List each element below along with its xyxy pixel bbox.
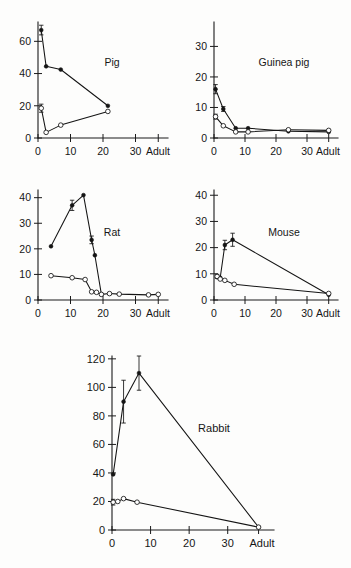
data-point-open[interactable] bbox=[233, 130, 238, 135]
chart-svg-guinea-pig: 01020300102030AdultGuinea pig bbox=[176, 4, 351, 172]
data-point-open[interactable] bbox=[221, 123, 226, 128]
y-tick-label: 20 bbox=[195, 241, 207, 253]
data-point-open[interactable] bbox=[115, 499, 120, 504]
x-tick-label-adult: Adult bbox=[146, 307, 170, 319]
y-tick-label: 10 bbox=[195, 268, 207, 280]
data-point-open[interactable] bbox=[70, 275, 75, 280]
data-point-filled[interactable] bbox=[82, 193, 86, 197]
y-tick-label: 30 bbox=[195, 215, 207, 227]
data-point-open[interactable] bbox=[39, 106, 44, 111]
x-axis-ticks: 0102030Adult bbox=[211, 296, 340, 319]
data-point-filled[interactable] bbox=[106, 104, 110, 108]
x-tick-label-adult: Adult bbox=[316, 307, 340, 319]
x-tick-label: 10 bbox=[144, 537, 156, 549]
data-point-filled[interactable] bbox=[137, 371, 141, 375]
data-point-filled[interactable] bbox=[231, 238, 235, 242]
series-polyline bbox=[41, 30, 108, 106]
panel-title-rat: Rat bbox=[104, 226, 120, 238]
x-tick-label: 10 bbox=[65, 307, 77, 319]
y-tick-label: 0 bbox=[201, 294, 207, 306]
data-point-open[interactable] bbox=[256, 525, 261, 530]
data-point-filled[interactable] bbox=[90, 238, 94, 242]
data-series-open bbox=[49, 273, 161, 297]
y-tick-label: 40 bbox=[19, 191, 31, 203]
data-point-filled[interactable] bbox=[59, 68, 63, 72]
data-point-open[interactable] bbox=[326, 128, 331, 133]
x-tick-label: 10 bbox=[65, 145, 77, 157]
data-point-open[interactable] bbox=[94, 290, 99, 295]
data-point-open[interactable] bbox=[135, 500, 140, 505]
chart-panel-rabbit[interactable]: 0204060801001200102030AdultRabbit bbox=[62, 340, 292, 566]
chart-panel-mouse[interactable]: 0102030400102030AdultMouse bbox=[176, 176, 351, 336]
data-point-open[interactable] bbox=[83, 277, 88, 282]
data-point-open[interactable] bbox=[44, 130, 49, 135]
data-point-open[interactable] bbox=[286, 127, 291, 132]
y-tick-label: 120 bbox=[87, 353, 105, 365]
data-point-open[interactable] bbox=[121, 496, 126, 501]
data-point-open[interactable] bbox=[232, 282, 237, 287]
data-point-open[interactable] bbox=[49, 273, 54, 278]
chart-svg-rat: 0102030400102030AdultRat bbox=[0, 176, 176, 336]
y-tick-label: 0 bbox=[25, 132, 31, 144]
data-series-open bbox=[215, 274, 331, 296]
data-point-open[interactable] bbox=[89, 290, 94, 295]
data-point-open[interactable] bbox=[106, 109, 111, 114]
data-point-open[interactable] bbox=[218, 277, 223, 282]
x-tick-label: 20 bbox=[270, 145, 282, 157]
chart-svg-mouse: 0102030400102030AdultMouse bbox=[176, 176, 351, 336]
data-point-filled[interactable] bbox=[111, 472, 115, 476]
y-tick-label: 20 bbox=[19, 243, 31, 255]
x-tick-label-adult: Adult bbox=[146, 145, 170, 157]
data-point-filled[interactable] bbox=[49, 244, 53, 248]
data-point-open[interactable] bbox=[156, 292, 161, 297]
y-tick-label: 0 bbox=[99, 524, 105, 536]
data-point-filled[interactable] bbox=[122, 400, 126, 404]
data-point-open[interactable] bbox=[146, 293, 151, 298]
data-point-filled[interactable] bbox=[221, 107, 225, 111]
y-axis-ticks: 010203040 bbox=[19, 191, 42, 305]
data-point-open[interactable] bbox=[99, 292, 104, 297]
chart-panel-rat[interactable]: 0102030400102030AdultRat bbox=[0, 176, 176, 336]
data-point-open[interactable] bbox=[223, 278, 228, 283]
data-point-filled[interactable] bbox=[214, 87, 218, 91]
data-series-open bbox=[39, 104, 110, 134]
y-tick-label: 10 bbox=[19, 268, 31, 280]
series-polyline bbox=[41, 108, 108, 132]
chart-panel-pig[interactable]: 02040600102030AdultPig bbox=[0, 4, 176, 172]
y-tick-label: 20 bbox=[93, 495, 105, 507]
x-tick-label: 0 bbox=[211, 145, 217, 157]
y-axis-ticks: 0102030 bbox=[195, 40, 218, 144]
x-tick-label: 20 bbox=[183, 537, 195, 549]
y-tick-label: 40 bbox=[195, 189, 207, 201]
x-tick-label-adult: Adult bbox=[249, 537, 274, 549]
data-point-filled[interactable] bbox=[93, 253, 97, 257]
data-series-filled bbox=[213, 85, 330, 134]
series-polyline bbox=[51, 276, 158, 295]
data-point-open[interactable] bbox=[107, 291, 112, 296]
panel-title-pig: Pig bbox=[104, 56, 119, 68]
panel-title-rabbit: Rabbit bbox=[198, 422, 230, 434]
data-point-filled[interactable] bbox=[223, 243, 227, 247]
chart-panel-guinea-pig[interactable]: 01020300102030AdultGuinea pig bbox=[176, 4, 351, 172]
series-polyline bbox=[216, 89, 329, 132]
data-point-filled[interactable] bbox=[39, 28, 43, 32]
data-point-filled[interactable] bbox=[44, 64, 48, 68]
data-point-open[interactable] bbox=[111, 500, 116, 505]
data-point-open[interactable] bbox=[246, 130, 251, 135]
x-axis-ticks: 0102030Adult bbox=[35, 296, 170, 319]
x-tick-label: 30 bbox=[130, 145, 142, 157]
y-tick-label: 40 bbox=[93, 467, 105, 479]
data-point-open[interactable] bbox=[117, 292, 122, 297]
data-point-open[interactable] bbox=[58, 123, 63, 128]
y-tick-label: 20 bbox=[19, 100, 31, 112]
y-axis-ticks: 0204060 bbox=[19, 35, 42, 144]
series-polyline bbox=[113, 373, 258, 527]
data-point-open[interactable] bbox=[213, 114, 218, 119]
panel-title-mouse: Mouse bbox=[268, 226, 300, 238]
series-polyline bbox=[51, 195, 101, 294]
figure-canvas: 02040600102030AdultPig 01020300102030Adu… bbox=[0, 0, 351, 568]
data-point-filled[interactable] bbox=[70, 203, 74, 207]
chart-svg-pig: 02040600102030AdultPig bbox=[0, 4, 176, 172]
data-point-open[interactable] bbox=[326, 291, 331, 296]
x-tick-label: 30 bbox=[301, 145, 313, 157]
